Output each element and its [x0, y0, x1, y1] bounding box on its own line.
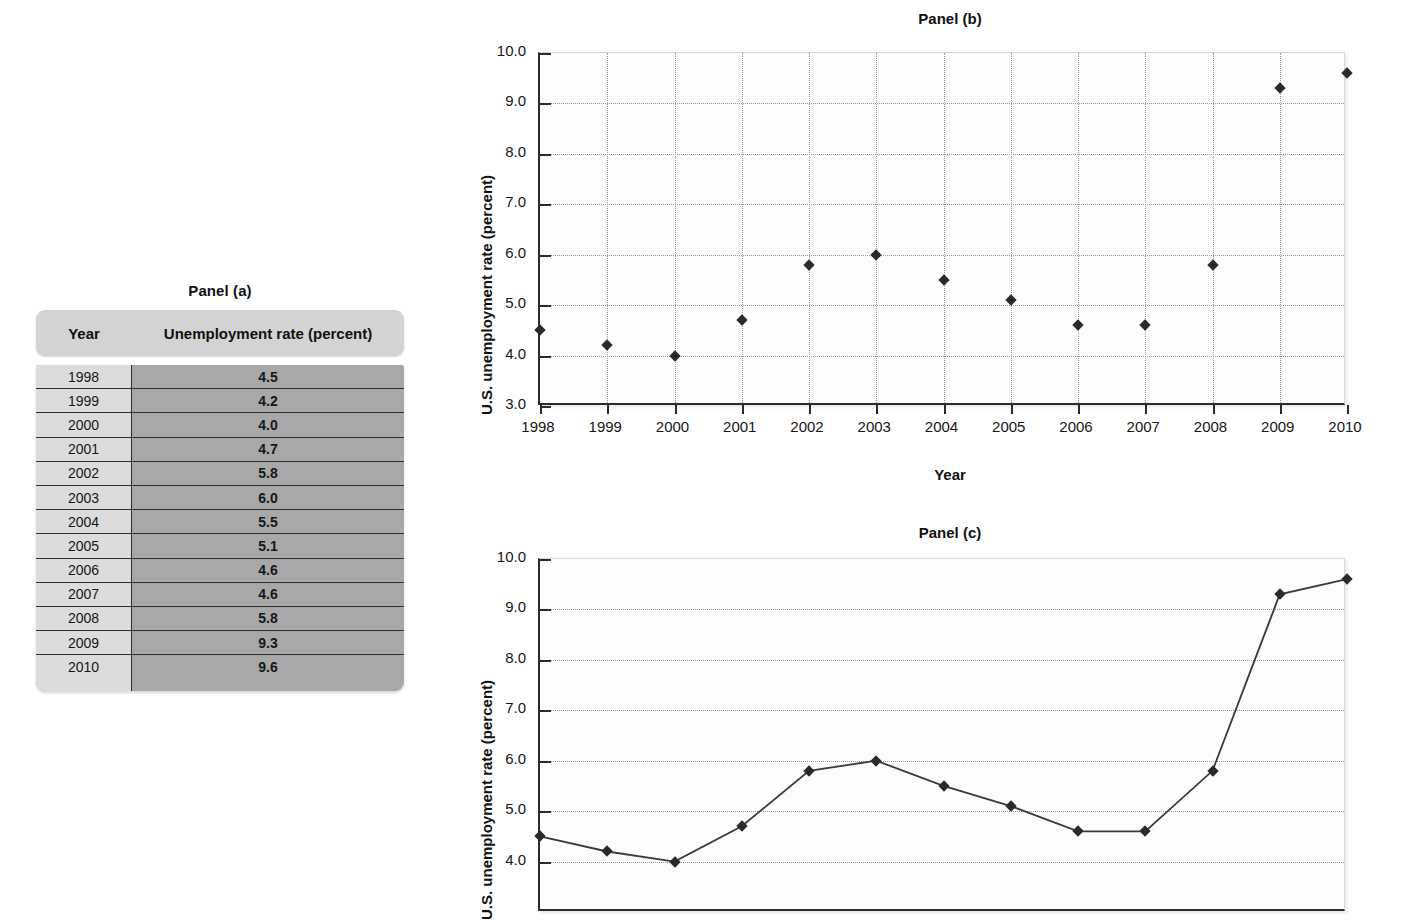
y-tick-label: 4.0: [480, 345, 526, 362]
data-point-marker: [669, 856, 680, 867]
y-axis-tick: [540, 761, 551, 763]
table-row: 20055.1: [36, 534, 404, 558]
cell-year: 2008: [36, 607, 132, 630]
gridline-horizontal: [540, 660, 1344, 661]
x-tick-label: 2010: [1315, 418, 1375, 435]
data-point-marker: [534, 831, 545, 842]
x-axis-tick: [1011, 405, 1013, 414]
y-axis-tick: [540, 255, 551, 257]
gridline-vertical: [876, 53, 877, 403]
x-axis-tick: [1145, 405, 1147, 414]
data-point-marker: [938, 780, 949, 791]
x-axis-tick: [1280, 405, 1282, 414]
cell-year: 1998: [36, 365, 132, 388]
table-row: 20074.6: [36, 583, 404, 607]
x-tick-label: 2005: [979, 418, 1039, 435]
x-axis-tick: [944, 405, 946, 414]
x-tick-label: 2004: [912, 418, 972, 435]
column-header-year: Year: [36, 325, 132, 342]
gridline-horizontal: [540, 255, 1344, 256]
y-tick-label: 5.0: [480, 800, 526, 817]
y-axis-tick: [540, 305, 551, 307]
data-point-marker: [1207, 765, 1218, 776]
y-axis-tick: [540, 811, 551, 813]
series-polyline: [540, 559, 1347, 912]
x-axis-tick: [540, 405, 542, 414]
cell-rate: 4.2: [132, 389, 404, 412]
cell-rate: 6.0: [132, 486, 404, 509]
data-point-marker: [871, 249, 882, 260]
data-point-marker: [736, 821, 747, 832]
table-row: 20004.0: [36, 413, 404, 437]
y-tick-label: 4.0: [480, 851, 526, 868]
cell-year: 2007: [36, 583, 132, 606]
x-axis-tick: [675, 405, 677, 414]
panel-c-plot-area: [538, 558, 1345, 911]
y-tick-label: 9.0: [480, 92, 526, 109]
table-body: 19984.519994.220004.020014.720025.820036…: [36, 365, 404, 691]
data-point-marker: [1207, 259, 1218, 270]
y-tick-label: 9.0: [480, 598, 526, 615]
cell-rate: 4.5: [132, 365, 404, 388]
gridline-horizontal: [540, 103, 1344, 104]
y-axis-tick: [540, 103, 551, 105]
gridline-horizontal: [540, 609, 1344, 610]
data-point-marker: [736, 315, 747, 326]
gridline-horizontal: [540, 204, 1344, 205]
y-tick-label: 3.0: [480, 395, 526, 412]
data-point-marker: [938, 274, 949, 285]
y-axis-tick: [540, 710, 551, 712]
data-point-marker: [1140, 826, 1151, 837]
x-axis-tick: [607, 405, 609, 414]
x-tick-label: 2009: [1248, 418, 1308, 435]
gridline-vertical: [1213, 53, 1214, 403]
gridline-vertical: [1011, 53, 1012, 403]
x-axis-tick: [809, 405, 811, 414]
cell-year: 2002: [36, 462, 132, 485]
cell-year: 2000: [36, 413, 132, 436]
data-point-marker: [1341, 573, 1352, 584]
y-axis-tick: [540, 609, 551, 611]
cell-year: 2003: [36, 486, 132, 509]
data-point-marker: [602, 846, 613, 857]
cell-rate: 5.8: [132, 462, 404, 485]
panel-b-title: Panel (b): [810, 10, 1090, 27]
data-point-marker: [1072, 826, 1083, 837]
x-tick-label: 1998: [508, 418, 568, 435]
gridline-vertical: [944, 53, 945, 403]
data-point-marker: [1274, 83, 1285, 94]
data-point-marker: [1341, 67, 1352, 78]
gridline-horizontal: [540, 811, 1344, 812]
panel-a-table-figure: Panel (a) Year Unemployment rate (percen…: [36, 282, 404, 691]
cell-year: 2005: [36, 534, 132, 557]
y-tick-label: 8.0: [480, 143, 526, 160]
cell-rate: 4.0: [132, 413, 404, 436]
cell-rate: 5.8: [132, 607, 404, 630]
cell-year: 2009: [36, 631, 132, 654]
cell-year: 2010: [36, 655, 132, 678]
cell-year: 2001: [36, 438, 132, 461]
table-row: 20036.0: [36, 486, 404, 510]
panel-a-title: Panel (a): [36, 282, 404, 299]
y-axis-tick: [540, 53, 551, 55]
y-axis-tick: [540, 356, 551, 358]
data-point-marker: [1005, 294, 1016, 305]
cell-rate: 4.7: [132, 438, 404, 461]
x-tick-label: 1999: [575, 418, 635, 435]
cell-rate: 9.6: [132, 655, 404, 678]
data-point-marker: [1274, 589, 1285, 600]
gridline-vertical: [809, 53, 810, 403]
table-row: 19984.5: [36, 365, 404, 389]
y-tick-label: 10.0: [480, 42, 526, 59]
y-axis-tick: [540, 660, 551, 662]
x-axis-tick: [742, 405, 744, 414]
y-tick-label: 7.0: [480, 699, 526, 716]
data-point-marker: [1072, 320, 1083, 331]
table-row: 20045.5: [36, 510, 404, 534]
gridline-horizontal: [540, 862, 1344, 863]
x-axis-tick: [1213, 405, 1215, 414]
table-row: 20025.8: [36, 462, 404, 486]
data-point-marker: [803, 259, 814, 270]
cell-rate: 5.5: [132, 510, 404, 533]
gridline-vertical: [1280, 53, 1281, 403]
